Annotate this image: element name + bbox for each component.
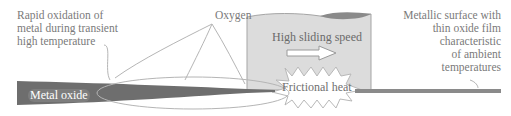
rapid-oxidation-line-1: Rapid oxidation of [17, 9, 118, 22]
metal-oxide-label: Metal oxide [28, 89, 90, 102]
high-sliding-speed-label: High sliding speed [272, 31, 362, 44]
metallic-surface-line-4: of ambient [384, 48, 501, 61]
metallic-surface-line-3: characteristic [384, 35, 501, 48]
frictional-heat-label: Frictional heat [282, 81, 352, 94]
metallic-surface-line-5: temperatures [384, 61, 501, 74]
oxidation-diagram: Rapid oxidation of metal during transien… [0, 0, 511, 116]
metallic-surface-label: Metallic surface with thin oxide film ch… [384, 9, 501, 74]
thin-oxide-film [355, 89, 501, 93]
oxygen-label: Oxygen [215, 9, 251, 22]
metallic-surface-line-1: Metallic surface with [384, 9, 501, 22]
metallic-surface-line-2: thin oxide film [384, 22, 501, 35]
rapid-oxidation-label: Rapid oxidation of metal during transien… [17, 9, 118, 48]
rapid-oxidation-line-3: high temperature [17, 35, 118, 48]
rapid-oxidation-line-2: metal during transient [17, 22, 118, 35]
